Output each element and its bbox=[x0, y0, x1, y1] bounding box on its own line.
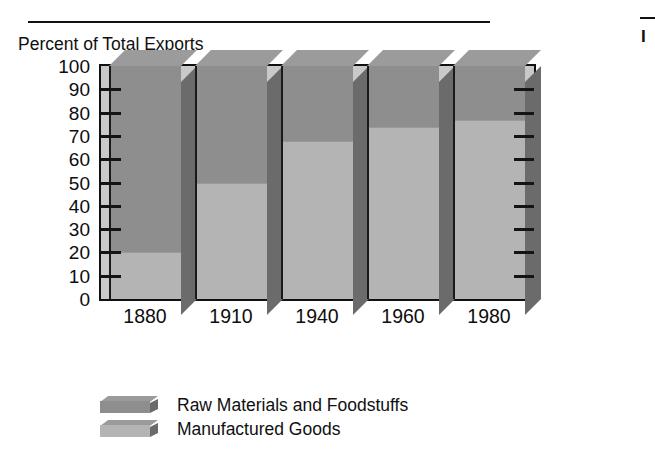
y-axis-tick-mark bbox=[514, 158, 534, 161]
legend-label: Manufactured Goods bbox=[177, 419, 340, 439]
y-axis-tick-mark bbox=[514, 112, 534, 115]
legend-swatch-side-face bbox=[150, 423, 158, 437]
y-axis-tick-mark bbox=[514, 251, 534, 254]
y-axis-tick-mark bbox=[101, 182, 121, 185]
y-axis-tick-mark bbox=[101, 228, 121, 231]
legend-label: Raw Materials and Foodstuffs bbox=[177, 395, 408, 415]
y-axis-tick-mark bbox=[101, 205, 121, 208]
bar-front-face bbox=[367, 66, 439, 299]
x-axis-tick-label: 1880 bbox=[103, 307, 187, 327]
legend-swatch-front-face bbox=[100, 401, 150, 413]
bar-segment-raw-materials bbox=[367, 66, 439, 127]
y-axis-tick-mark bbox=[514, 228, 534, 231]
legend-swatch-front-face bbox=[100, 425, 150, 437]
bar-1910 bbox=[195, 66, 267, 299]
right-column-text-fragment: I bbox=[641, 28, 655, 48]
bar-segment-divider bbox=[195, 183, 267, 184]
right-column-horizontal-rule bbox=[640, 17, 655, 19]
bar-front-face bbox=[195, 66, 267, 299]
bar-segment-divider bbox=[453, 120, 525, 121]
y-axis-tick-mark bbox=[101, 251, 121, 254]
chart-plot-area bbox=[99, 64, 536, 301]
bar-segment-divider bbox=[281, 141, 353, 142]
y-axis-tick-mark bbox=[514, 205, 534, 208]
y-axis-tick-label: 60 bbox=[69, 150, 90, 169]
bar-1960 bbox=[367, 66, 439, 299]
y-axis-tick-label: 30 bbox=[69, 220, 90, 239]
y-axis-tick-mark bbox=[514, 275, 534, 278]
legend-swatch bbox=[100, 420, 158, 437]
y-axis-tick-label: 80 bbox=[69, 103, 90, 122]
y-axis-tick-mark bbox=[101, 158, 121, 161]
y-axis-tick-label: 20 bbox=[69, 243, 90, 262]
y-axis-tick-label: 50 bbox=[69, 173, 90, 192]
y-axis-labels: 1009080706050403020100 bbox=[0, 0, 99, 455]
y-axis-tick-mark bbox=[101, 88, 121, 91]
bar-segment-manufactured-goods bbox=[281, 141, 353, 299]
bar-front-face bbox=[281, 66, 353, 299]
bar-segment-manufactured-goods bbox=[367, 127, 439, 299]
y-axis-tick-mark bbox=[514, 182, 534, 185]
y-axis-tick-label: 10 bbox=[69, 266, 90, 285]
x-axis-tick-label: 1940 bbox=[275, 307, 359, 327]
x-axis-tick-label: 1960 bbox=[361, 307, 445, 327]
x-axis-tick-label: 1910 bbox=[189, 307, 273, 327]
y-axis-tick-mark bbox=[101, 275, 121, 278]
legend-swatch bbox=[100, 396, 158, 413]
bar-segment-raw-materials bbox=[195, 66, 267, 183]
y-axis-tick-mark bbox=[101, 135, 121, 138]
y-axis-tick-label: 90 bbox=[69, 80, 90, 99]
y-axis-tick-label: 100 bbox=[58, 57, 90, 76]
y-axis-tick-label: 40 bbox=[69, 196, 90, 215]
y-axis-tick-mark bbox=[101, 112, 121, 115]
y-axis-tick-mark bbox=[514, 135, 534, 138]
legend-swatch-side-face bbox=[150, 399, 158, 413]
bar-segment-manufactured-goods bbox=[453, 120, 525, 299]
bar-segment-raw-materials bbox=[281, 66, 353, 141]
bar-1940 bbox=[281, 66, 353, 299]
bar-segment-manufactured-goods bbox=[195, 183, 267, 300]
y-axis-tick-mark bbox=[514, 88, 534, 91]
y-axis-tick-label: 70 bbox=[69, 126, 90, 145]
bar-segment-divider bbox=[367, 127, 439, 128]
x-axis-tick-label: 1980 bbox=[447, 307, 531, 327]
y-axis-tick-label: 0 bbox=[79, 290, 90, 309]
